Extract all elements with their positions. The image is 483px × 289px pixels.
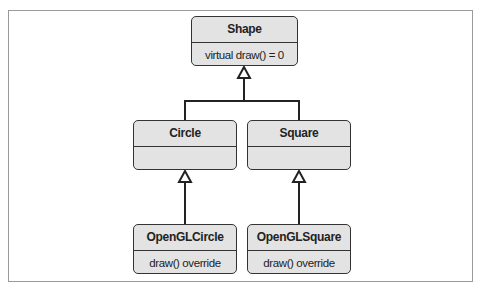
class-square: Square: [247, 120, 351, 170]
class-name: OpenGLCircle: [134, 225, 236, 251]
class-name: Circle: [134, 121, 236, 147]
generalization-arrow-icon: [293, 171, 305, 182]
class-operations: draw() override: [134, 251, 236, 274]
class-name: Shape: [192, 17, 297, 43]
class-openglsquare: OpenGLSquare draw() override: [247, 224, 351, 274]
class-name: OpenGLSquare: [248, 225, 350, 251]
class-name: Square: [248, 121, 350, 147]
class-operations: virtual draw() = 0: [192, 43, 297, 66]
generalization-arrow-icon: [179, 171, 191, 182]
class-shape: Shape virtual draw() = 0: [191, 16, 298, 66]
class-circle: Circle: [133, 120, 237, 170]
class-operations: draw() override: [248, 251, 350, 274]
generalization-arrow-icon: [238, 67, 250, 78]
class-openglcircle: OpenGLCircle draw() override: [133, 224, 237, 274]
